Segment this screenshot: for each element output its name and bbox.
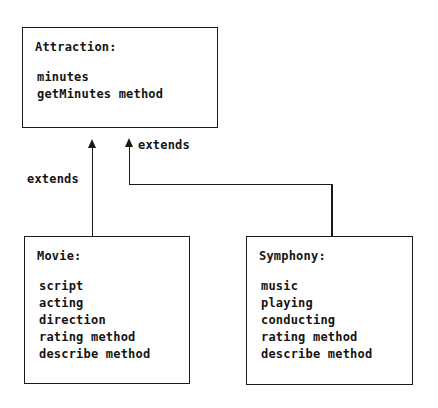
- member-list-symphony: music playing conducting rating method d…: [261, 278, 372, 363]
- class-box-movie[interactable]: Movie: script acting direction rating me…: [24, 236, 190, 384]
- member-list-attraction: minutes getMinutes method: [37, 69, 163, 103]
- class-title-movie: Movie:: [37, 249, 82, 263]
- class-box-attraction[interactable]: Attraction: minutes getMinutes method: [22, 27, 218, 128]
- member-item: rating method: [261, 329, 372, 346]
- member-item: minutes: [37, 69, 163, 86]
- inheritance-edge-movie: [92, 146, 94, 236]
- edge-label-extends-movie: extends: [27, 172, 79, 186]
- arrowhead-icon: [88, 139, 96, 148]
- member-item: music: [261, 278, 372, 295]
- class-diagram-canvas: Attraction: minutes getMinutes method Mo…: [0, 0, 438, 408]
- class-title-attraction: Attraction:: [35, 40, 117, 54]
- member-item: direction: [39, 312, 150, 329]
- arrowhead-icon: [125, 138, 133, 147]
- member-item: playing: [261, 295, 372, 312]
- inheritance-edge-symphony-vertical-top: [129, 145, 131, 185]
- member-item: conducting: [261, 312, 372, 329]
- member-item: describe method: [261, 346, 372, 363]
- member-item: acting: [39, 295, 150, 312]
- inheritance-edge-symphony-horizontal: [129, 184, 333, 186]
- edge-label-extends-symphony: extends: [138, 138, 190, 152]
- member-item: describe method: [39, 346, 150, 363]
- class-title-symphony: Symphony:: [259, 249, 326, 263]
- member-item: script: [39, 278, 150, 295]
- inheritance-edge-symphony-vertical-right: [331, 184, 333, 237]
- member-list-movie: script acting direction rating method de…: [39, 278, 150, 363]
- class-box-symphony[interactable]: Symphony: music playing conducting ratin…: [246, 236, 413, 385]
- member-item: getMinutes method: [37, 86, 163, 103]
- member-item: rating method: [39, 329, 150, 346]
